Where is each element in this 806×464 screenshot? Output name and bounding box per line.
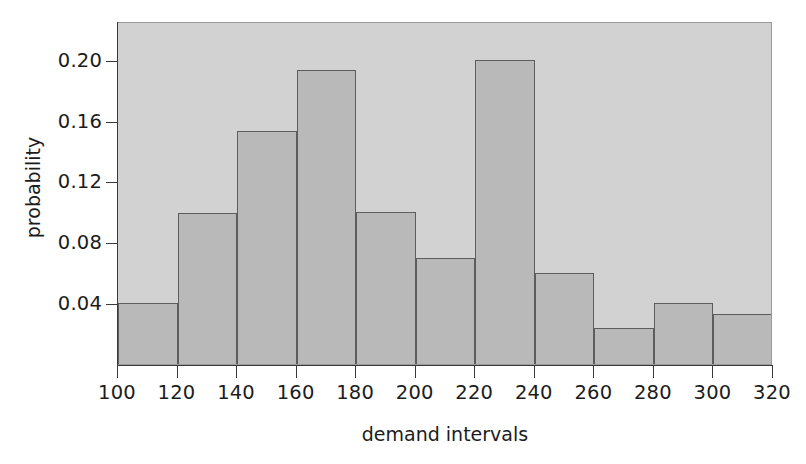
x-axis-tick: [712, 366, 713, 378]
histogram-bar: [297, 70, 357, 364]
x-axis-tick: [534, 366, 535, 378]
histogram-bar: [535, 273, 595, 364]
histogram-bar: [356, 212, 416, 364]
x-axis-tick: [117, 366, 118, 378]
histogram-bar: [178, 213, 238, 364]
x-axis-tick: [474, 366, 475, 378]
plot-area: [117, 22, 772, 365]
x-axis-tick: [593, 366, 594, 378]
x-axis-line: [117, 365, 773, 366]
y-axis-tick: [106, 304, 117, 305]
histogram-figure: 0.040.080.120.160.20 probability demand …: [0, 0, 806, 464]
x-axis-title: demand intervals: [117, 423, 773, 445]
y-axis-tick: [106, 182, 117, 183]
histogram-bar: [654, 303, 714, 364]
histogram-bar: [475, 60, 535, 364]
x-axis-tick: [772, 366, 773, 378]
y-axis-title: probability: [24, 98, 43, 278]
y-axis-tick: [106, 122, 117, 123]
y-axis-tick-label: 0.16: [2, 112, 102, 132]
x-axis-tick: [355, 366, 356, 378]
histogram-bar: [118, 303, 178, 364]
y-axis-tick-label: 0.08: [2, 233, 102, 253]
histogram-bar: [594, 328, 654, 365]
x-axis-tick: [236, 366, 237, 378]
x-axis-tick: [415, 366, 416, 378]
y-axis-line: [117, 22, 118, 366]
x-axis-tick: [653, 366, 654, 378]
x-axis-tick: [177, 366, 178, 378]
y-axis-tick: [106, 243, 117, 244]
histogram-bar: [237, 131, 297, 364]
y-axis-tick-label: 0.20: [2, 51, 102, 71]
x-axis-tick-label: 320: [732, 382, 806, 404]
histogram-bar: [713, 314, 772, 364]
y-axis-tick-label: 0.04: [2, 294, 102, 314]
y-axis-tick-label: 0.12: [2, 172, 102, 192]
y-axis-tick: [106, 61, 117, 62]
histogram-bar: [416, 258, 476, 364]
x-axis-tick: [296, 366, 297, 378]
